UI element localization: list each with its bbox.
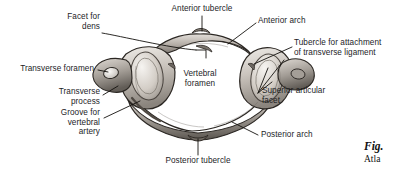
anterior-tubercle-shape [192, 29, 210, 34]
figure-caption-text: Atla [364, 154, 380, 164]
label-vertebral-foramen: Vertebral foramen [168, 69, 232, 88]
facet-for-dens-shape [196, 45, 212, 52]
figure-number: Fig. [364, 140, 384, 152]
leader-facet-for-dens-bracket [196, 50, 206, 58]
label-transverse-foramen: Transverse foramen [2, 64, 94, 74]
label-anterior-arch: Anterior arch [258, 16, 348, 26]
label-superior-articular-facet: Superior articular facet [262, 86, 352, 105]
figure-container: Facet for dens Anterior tubercle Anterio… [0, 0, 398, 171]
label-facet-for-dens: Facet for dens [24, 12, 100, 31]
label-posterior-tubercle: Posterior tubercle [146, 156, 250, 166]
label-anterior-tubercle: Anterior tubercle [152, 4, 252, 14]
label-groove-vertebral-artery: Groove for vertebral artery [24, 108, 100, 137]
label-tubercle-transverse-ligament: Tubercle for attachment of transverse li… [294, 38, 398, 57]
leader-anterior-arch [228, 23, 256, 44]
label-posterior-arch: Posterior arch [261, 130, 351, 140]
label-transverse-process: Transverse process [26, 87, 100, 106]
